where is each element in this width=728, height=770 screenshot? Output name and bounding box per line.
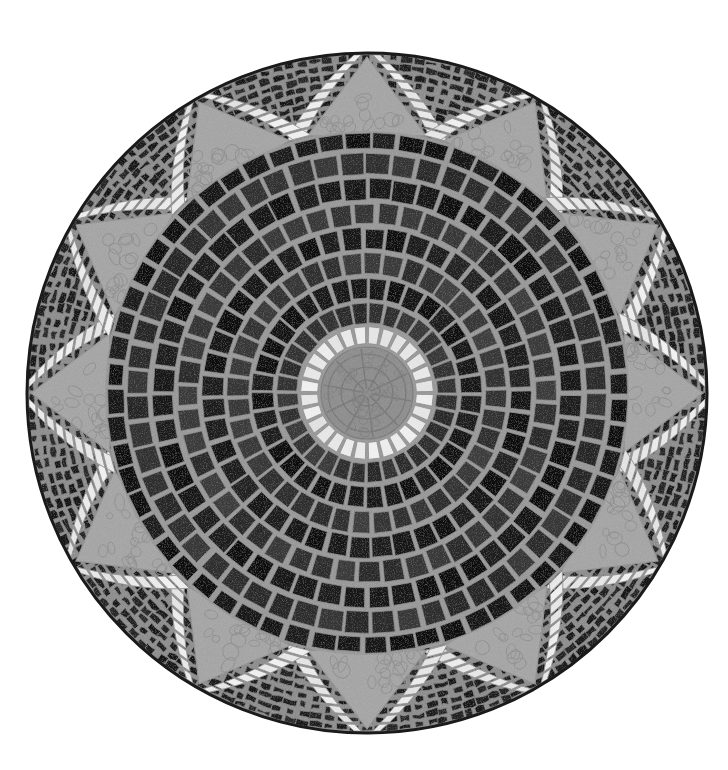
mosaic-medallion — [0, 0, 728, 770]
center-disc — [299, 325, 435, 461]
mosaic-canvas: A circular greyscale ceramic mosaic meda… — [0, 0, 728, 770]
